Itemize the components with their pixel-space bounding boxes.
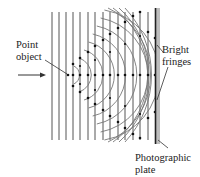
point-object-dot-icon bbox=[67, 74, 70, 77]
bright-fringes-label: Bright fringes bbox=[162, 44, 191, 67]
photographic-plate-label: Photographic plate bbox=[135, 152, 194, 175]
incoming-wave-arrow-icon bbox=[18, 73, 46, 78]
photographic-plate bbox=[156, 8, 161, 144]
point-object-label: Point object bbox=[16, 39, 42, 62]
spherical-wavefronts bbox=[74, 8, 159, 142]
holography-diagram: Point object Bright fringes Photographic… bbox=[0, 0, 200, 177]
